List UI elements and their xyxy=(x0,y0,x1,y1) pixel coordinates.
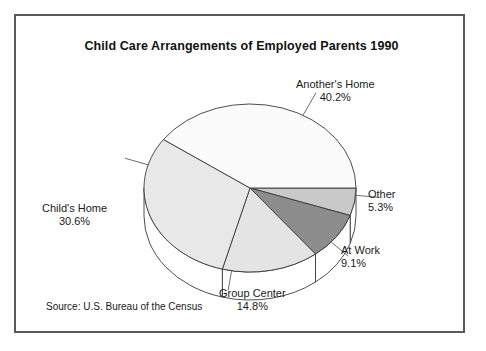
slice-label-at-work-value: 9.1% xyxy=(341,257,380,270)
slice-label-anothers-home: Another's Home 40.2% xyxy=(296,78,375,105)
pie-top-slices xyxy=(144,104,356,272)
slice-label-group-center: Group Center 14.8% xyxy=(219,287,286,314)
chart-frame: Child Care Arrangements of Employed Pare… xyxy=(14,14,465,333)
label-leader-line xyxy=(125,158,148,165)
source-note: Source: U.S. Bureau of the Census xyxy=(46,301,202,312)
slice-label-group-center-name: Group Center xyxy=(219,287,286,299)
slice-label-childs-home-name: Child's Home xyxy=(42,202,107,214)
slice-label-at-work-name: At Work xyxy=(341,244,380,256)
slice-label-other-value: 5.3% xyxy=(368,201,396,214)
slice-label-anothers-home-value: 40.2% xyxy=(296,91,375,104)
slice-label-group-center-value: 14.8% xyxy=(219,300,286,313)
slice-label-other: Other 5.3% xyxy=(368,188,396,215)
slice-label-childs-home-value: 30.6% xyxy=(42,215,107,228)
slice-label-childs-home: Child's Home 30.6% xyxy=(42,202,107,229)
slice-label-other-name: Other xyxy=(368,188,396,200)
slice-label-anothers-home-name: Another's Home xyxy=(296,78,375,90)
slice-label-at-work: At Work 9.1% xyxy=(341,244,380,271)
